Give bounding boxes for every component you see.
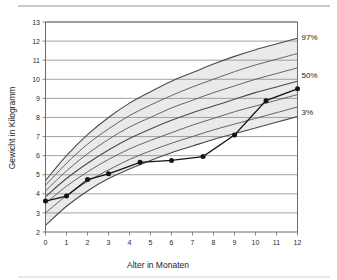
data-point-marker <box>43 199 48 204</box>
percentile-band-fill <box>46 38 298 225</box>
percentile-band-area <box>46 38 298 225</box>
x-axis-tick-labels: 0123456789101112 <box>44 239 302 246</box>
x-tick-label-5: 5 <box>149 239 153 246</box>
percentile-50-label: 50% <box>302 71 318 80</box>
x-tick-label-12: 12 <box>294 239 302 246</box>
y-tick-label-12: 12 <box>32 38 40 45</box>
x-tick-label-6: 6 <box>170 239 174 246</box>
x-tick-label-4: 4 <box>128 239 132 246</box>
percentile-3-label: 3% <box>302 108 314 117</box>
chart-canvas: 2345678910111213 0123456789101112 97%50%… <box>0 0 337 280</box>
x-tick-label-7: 7 <box>191 239 195 246</box>
y-tick-label-11: 11 <box>33 57 40 64</box>
data-point-marker <box>64 194 69 199</box>
percentile-annotations: 97%50%3% <box>302 33 318 116</box>
data-point-marker <box>264 98 269 103</box>
y-tick-label-5: 5 <box>36 171 40 178</box>
x-tick-label-10: 10 <box>252 239 260 246</box>
data-point-marker <box>106 171 111 176</box>
y-axis-title: Gewicht in Kilogramm <box>7 87 17 170</box>
x-tick-label-0: 0 <box>44 239 48 246</box>
x-tick-label-1: 1 <box>65 239 69 246</box>
percentile-97-label: 97% <box>302 33 318 42</box>
data-point-marker <box>232 133 237 138</box>
data-point-marker <box>138 160 143 165</box>
y-tick-label-7: 7 <box>36 133 40 140</box>
y-tick-label-13: 13 <box>32 19 40 26</box>
x-tick-label-11: 11 <box>273 239 280 246</box>
x-tick-label-8: 8 <box>212 239 216 246</box>
x-axis-title: Alter in Monaten <box>127 260 189 270</box>
x-tick-label-9: 9 <box>233 239 237 246</box>
data-point-marker <box>201 154 206 159</box>
y-tick-label-2: 2 <box>36 229 40 236</box>
growth-chart: 2345678910111213 0123456789101112 97%50%… <box>0 0 337 280</box>
y-tick-label-6: 6 <box>36 152 40 159</box>
x-tick-label-2: 2 <box>86 239 90 246</box>
y-tick-label-3: 3 <box>36 210 40 217</box>
data-point-marker <box>295 86 300 91</box>
x-tick-label-3: 3 <box>107 239 111 246</box>
y-tick-label-8: 8 <box>36 114 40 121</box>
y-tick-label-10: 10 <box>32 76 40 83</box>
y-tick-label-4: 4 <box>36 190 40 197</box>
y-tick-label-9: 9 <box>36 95 40 102</box>
y-axis-tick-labels: 2345678910111213 <box>32 19 40 236</box>
data-point-marker <box>85 177 90 182</box>
data-point-marker <box>169 158 174 163</box>
